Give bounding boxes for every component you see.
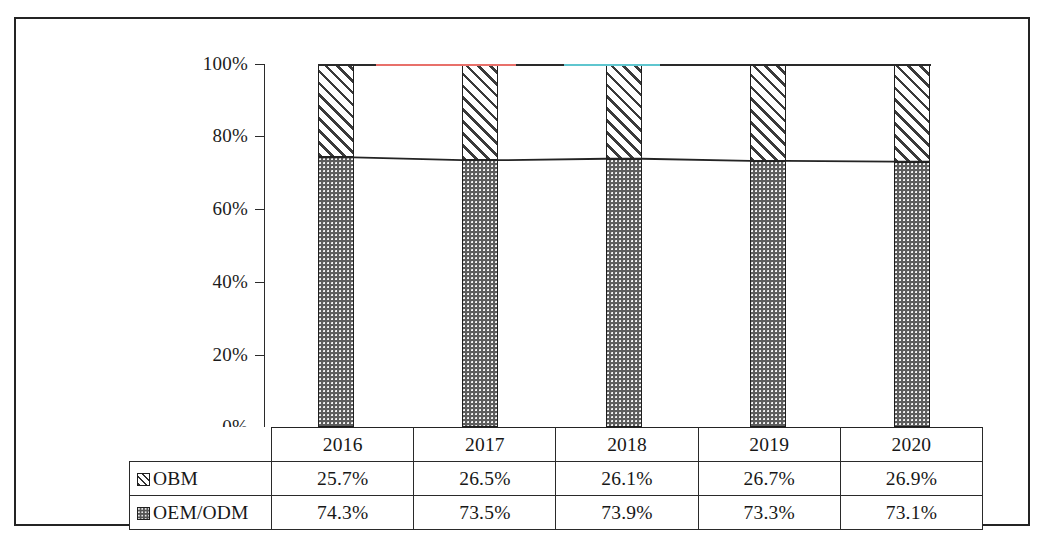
y-axis-label-80: 80%	[213, 125, 248, 147]
table-row-oem-odm: OEM/ODM 74.3% 73.5% 73.9% 73.3% 73.1%	[130, 496, 983, 530]
table-corner-cell	[130, 428, 272, 462]
line-100-segment-a	[318, 64, 376, 66]
y-tick-100	[255, 64, 264, 65]
bar-group-2019[interactable]	[750, 64, 786, 427]
bar-segment-oem-odm-2018[interactable]	[606, 159, 642, 427]
column-header-2020: 2020	[840, 428, 982, 462]
y-axis-label-100: 100%	[203, 53, 248, 75]
data-table: 2016 2017 2018 2019 2020 OBM 25.7% 26.5%…	[129, 427, 983, 530]
bar-segment-obm-2016[interactable]	[318, 64, 354, 157]
bar-group-2020[interactable]	[894, 64, 930, 427]
cell-oem-2017: 73.5%	[414, 496, 556, 530]
legend-label-obm: OBM	[153, 468, 198, 489]
y-tick-80	[255, 136, 264, 137]
cell-obm-2018: 26.1%	[556, 462, 698, 496]
y-tick-60	[255, 209, 264, 210]
y-axis-label-60: 60%	[213, 198, 248, 220]
bar-group-2016[interactable]	[318, 64, 354, 427]
column-header-2017: 2017	[414, 428, 556, 462]
figure-frame: 100% 80% 60% 40% 20% 0% 2016 2017 2018 2…	[14, 17, 1030, 526]
line-100-segment-c	[660, 64, 931, 66]
y-tick-40	[255, 282, 264, 283]
cell-obm-2020: 26.9%	[840, 462, 982, 496]
line-100-segment-b	[516, 64, 564, 66]
cell-oem-2020: 73.1%	[840, 496, 982, 530]
y-axis-label-40: 40%	[213, 271, 248, 293]
y-tick-20	[255, 355, 264, 356]
cell-oem-2016: 74.3%	[272, 496, 414, 530]
cut-off-caption-sliver: ———————— ———— —————— —— ——— —————	[36, 549, 966, 554]
bar-segment-obm-2018[interactable]	[606, 64, 642, 159]
line-100-segment-red	[376, 64, 516, 66]
bar-segment-oem-odm-2019[interactable]	[750, 161, 786, 427]
y-axis-label-20: 20%	[213, 344, 248, 366]
cell-obm-2017: 26.5%	[414, 462, 556, 496]
top-connector-line	[318, 64, 931, 66]
cell-obm-2019: 26.7%	[698, 462, 840, 496]
legend-oem-odm: OEM/ODM	[130, 496, 272, 530]
column-header-2019: 2019	[698, 428, 840, 462]
bar-segment-obm-2019[interactable]	[750, 64, 786, 161]
bar-segment-oem-odm-2017[interactable]	[462, 160, 498, 427]
bar-group-2017[interactable]	[462, 64, 498, 427]
table-header-row: 2016 2017 2018 2019 2020	[130, 428, 983, 462]
line-100-segment-cyan	[564, 64, 660, 66]
bar-segment-obm-2017[interactable]	[462, 64, 498, 160]
column-header-2018: 2018	[556, 428, 698, 462]
plot-area	[264, 64, 983, 427]
bar-segment-oem-odm-2016[interactable]	[318, 157, 354, 427]
bar-segment-obm-2020[interactable]	[894, 64, 930, 162]
bar-segment-oem-odm-2020[interactable]	[894, 162, 930, 427]
cell-oem-2018: 73.9%	[556, 496, 698, 530]
bar-group-2018[interactable]	[606, 64, 642, 427]
table-row-obm: OBM 25.7% 26.5% 26.1% 26.7% 26.9%	[130, 462, 983, 496]
connector-line-svg	[318, 157, 931, 165]
obm-hatch-swatch-icon	[137, 473, 150, 486]
legend-label-oem-odm: OEM/ODM	[153, 502, 249, 523]
cell-obm-2016: 25.7%	[272, 462, 414, 496]
legend-obm: OBM	[130, 462, 272, 496]
oem-dot-swatch-icon	[137, 507, 150, 520]
segment-boundary-connector-line	[318, 157, 931, 165]
cell-oem-2019: 73.3%	[698, 496, 840, 530]
column-header-2016: 2016	[272, 428, 414, 462]
